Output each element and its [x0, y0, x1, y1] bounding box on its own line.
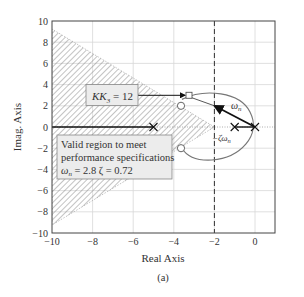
svg-text:−2: −2 — [37, 143, 48, 154]
svg-text:−6: −6 — [37, 185, 48, 196]
svg-text:−8: −8 — [87, 236, 98, 247]
svg-text:0: 0 — [253, 236, 258, 247]
svg-text:0: 0 — [43, 122, 48, 133]
svg-text:8: 8 — [43, 37, 48, 48]
svg-text:−6: −6 — [128, 236, 139, 247]
svg-text:4: 4 — [43, 79, 48, 90]
y-tick-labels: 10 8 6 4 2 0 −2 −4 −6 −8 −10 — [32, 16, 48, 239]
x-axis-label: Real Axis — [141, 252, 184, 264]
svg-text:−8: −8 — [37, 206, 48, 217]
valid-region-line2: performance specifications — [61, 152, 174, 163]
y-axis-label: Imag. Axis — [11, 103, 23, 151]
zero-upper — [177, 102, 184, 109]
valid-region-line1: Valid region to meet — [61, 139, 147, 150]
root-locus-chart: KK3 = 12 ωn −ζωn Valid region to meet pe… — [0, 0, 304, 297]
svg-text:10: 10 — [38, 16, 48, 27]
svg-text:−4: −4 — [37, 164, 48, 175]
zero-lower — [177, 145, 184, 152]
figure-caption: (a) — [157, 272, 169, 284]
svg-text:−4: −4 — [168, 236, 179, 247]
svg-text:−2: −2 — [209, 236, 220, 247]
svg-text:6: 6 — [43, 58, 48, 69]
svg-text:−10: −10 — [44, 236, 60, 247]
selected-point-marker — [186, 92, 192, 98]
svg-text:2: 2 — [43, 100, 48, 111]
x-tick-labels: −10 −8 −6 −4 −2 0 — [44, 236, 257, 247]
zeta-wn-label: −ζωn — [212, 133, 231, 144]
